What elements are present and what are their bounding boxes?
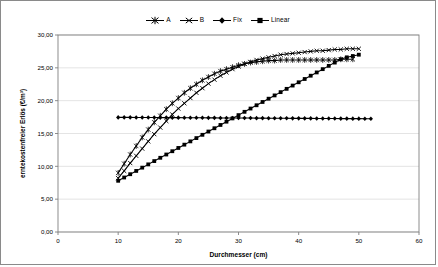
data-point-marker <box>339 57 343 61</box>
data-point-marker <box>321 116 325 121</box>
data-point-marker <box>213 126 217 130</box>
data-point-marker <box>297 80 301 84</box>
data-point-marker <box>357 53 361 57</box>
data-point-marker <box>201 133 205 137</box>
data-point-marker <box>116 179 120 183</box>
data-point-marker <box>152 159 156 163</box>
data-point-marker <box>363 116 367 121</box>
data-point-marker <box>116 115 120 120</box>
data-point-marker <box>158 115 162 120</box>
y-axis-tick-labels: 0,005,0010,0015,0020,0025,0030,00 <box>38 31 58 235</box>
data-point-marker <box>146 162 150 166</box>
chart-plot: 0,005,0010,0015,0020,0025,0030,00 010203… <box>1 1 437 266</box>
data-series-layer <box>116 47 373 183</box>
data-point-marker <box>194 136 198 140</box>
data-point-marker <box>158 156 162 160</box>
data-point-marker <box>297 116 301 121</box>
data-point-marker <box>315 71 319 75</box>
data-point-marker <box>249 107 253 111</box>
data-point-marker <box>170 149 174 153</box>
data-point-marker <box>128 115 132 120</box>
data-point-marker <box>273 116 277 121</box>
data-point-marker <box>231 116 235 120</box>
data-point-marker <box>225 120 229 124</box>
y-axis-tick-label: 15,00 <box>38 130 54 137</box>
y-axis-tick-label: 30,00 <box>38 31 54 38</box>
data-point-marker <box>285 116 289 121</box>
y-axis-tick-label: 10,00 <box>38 163 54 170</box>
data-point-marker <box>134 115 138 120</box>
data-point-marker <box>309 74 313 78</box>
data-point-marker <box>176 115 180 120</box>
data-point-marker <box>345 55 349 59</box>
data-point-marker <box>182 143 186 147</box>
data-point-marker <box>285 87 289 91</box>
data-point-marker <box>194 116 198 121</box>
data-point-marker <box>152 115 156 120</box>
data-point-marker <box>188 139 192 143</box>
data-point-marker <box>279 116 283 121</box>
data-point-marker <box>176 146 180 150</box>
data-point-marker <box>357 116 361 121</box>
data-point-marker <box>345 116 349 121</box>
data-point-marker <box>291 84 295 88</box>
data-point-marker <box>261 100 265 104</box>
x-axis-title: Durchmesser (cm) <box>210 251 268 259</box>
data-point-marker <box>273 94 277 98</box>
y-axis-tick-label: 0,00 <box>41 228 54 235</box>
data-point-marker <box>267 97 271 101</box>
data-point-marker <box>303 77 307 81</box>
data-point-marker <box>134 169 138 173</box>
data-point-marker <box>182 115 186 120</box>
data-point-marker <box>333 116 337 121</box>
data-point-marker <box>255 103 259 107</box>
data-point-marker <box>248 116 252 121</box>
data-point-marker <box>122 115 126 120</box>
chart-container: A B Fix Linear <box>0 0 436 265</box>
data-point-marker <box>266 116 270 121</box>
data-point-marker <box>260 116 264 121</box>
data-point-marker <box>369 116 373 121</box>
data-point-marker <box>315 116 319 121</box>
data-point-marker <box>140 115 144 120</box>
series-line <box>118 59 353 173</box>
data-point-marker <box>237 113 241 117</box>
x-axis-tick-labels: 0102030405060 <box>56 232 423 244</box>
series-a <box>116 56 355 175</box>
data-point-marker <box>254 116 258 121</box>
data-point-marker <box>303 116 307 121</box>
data-point-marker <box>279 90 283 94</box>
x-axis-tick-label: 50 <box>355 237 362 244</box>
data-point-marker <box>200 116 204 121</box>
data-point-marker <box>207 130 211 134</box>
data-point-marker <box>351 54 355 58</box>
data-point-marker <box>212 116 216 121</box>
data-point-marker <box>242 116 246 121</box>
data-point-marker <box>219 123 223 127</box>
data-point-marker <box>321 67 325 71</box>
data-point-marker <box>224 116 228 121</box>
data-point-marker <box>140 166 144 170</box>
data-point-marker <box>122 176 126 180</box>
y-axis-tick-label: 25,00 <box>38 64 54 71</box>
data-point-marker <box>164 153 168 157</box>
data-point-marker <box>243 110 247 114</box>
x-axis-tick-label: 30 <box>235 237 242 244</box>
data-point-marker <box>146 115 150 120</box>
data-point-marker <box>188 115 192 120</box>
x-axis-tick-label: 10 <box>115 237 122 244</box>
data-point-marker <box>333 61 337 65</box>
data-point-marker <box>339 116 343 121</box>
data-point-marker <box>351 116 355 121</box>
data-point-marker <box>291 116 295 121</box>
data-point-marker <box>327 116 331 121</box>
data-point-marker <box>206 116 210 121</box>
y-axis-title: erntekostenfreier Erlös (€/m³) <box>19 89 27 178</box>
y-axis-tick-label: 20,00 <box>38 97 54 104</box>
x-axis-tick-label: 40 <box>295 237 302 244</box>
data-point-marker <box>309 116 313 121</box>
data-point-marker <box>327 64 331 68</box>
x-axis-tick-label: 60 <box>416 237 423 244</box>
x-axis-tick-label: 20 <box>175 237 182 244</box>
x-axis-tick-label: 0 <box>56 237 60 244</box>
